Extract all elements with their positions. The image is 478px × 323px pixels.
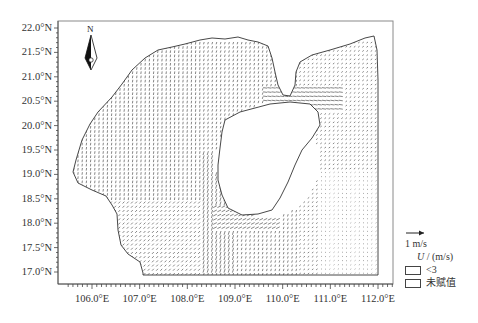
y-axis-label: 20.5°N bbox=[0, 95, 52, 107]
y-axis-label: 18.0°N bbox=[0, 217, 52, 229]
y-axis-ticks bbox=[54, 21, 58, 284]
y-axis-label: 21.0°N bbox=[0, 71, 52, 83]
y-axis-label: 22.0°N bbox=[0, 22, 52, 34]
y-axis-label: 20.0°N bbox=[0, 120, 52, 132]
legend-swatch bbox=[405, 279, 421, 288]
legend-swatch bbox=[405, 266, 421, 275]
current-vectors bbox=[72, 42, 376, 277]
current-vector-map: N 22.0°N21.5°N21.0°N20.5°N20.0°N19.5°N19… bbox=[0, 0, 478, 323]
legend-scale-label: 1 m/s bbox=[405, 238, 427, 249]
y-axis-label: 19.0°N bbox=[0, 168, 52, 180]
y-axis-label: 21.5°N bbox=[0, 46, 52, 58]
y-axis-label: 17.5°N bbox=[0, 242, 52, 254]
legend-item-unassigned: 未赋值 bbox=[405, 277, 456, 289]
y-axis-label: 19.5°N bbox=[0, 144, 52, 156]
north-arrow-icon bbox=[85, 35, 97, 70]
coastline bbox=[73, 36, 378, 275]
legend-variable-label: U / (m/s) bbox=[417, 251, 453, 262]
y-axis-label: 18.5°N bbox=[0, 193, 52, 205]
north-arrow-label: N bbox=[87, 24, 94, 34]
scale-arrow-icon bbox=[406, 231, 424, 236]
map-frame bbox=[58, 21, 393, 284]
x-axis-ticks bbox=[58, 284, 393, 289]
legend-item-lt3: <3 bbox=[405, 264, 437, 276]
x-axis-label: 112.0°E bbox=[348, 293, 408, 305]
y-axis-label: 17.0°N bbox=[0, 266, 52, 278]
